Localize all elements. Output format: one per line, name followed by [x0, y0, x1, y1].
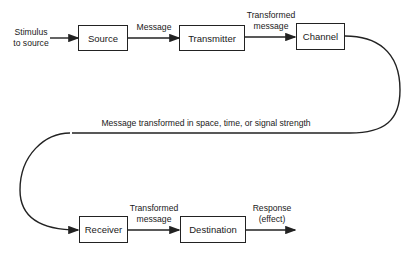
transformed-message-label-bottom: Transformedmessage — [127, 203, 181, 225]
transmitter-label: Transmitter — [188, 33, 236, 44]
channel-transform-label: Message transformed in space, time, or s… — [95, 118, 317, 129]
channel-box: Channel — [296, 23, 345, 50]
transformed-message-label-top: Transformedmessage — [244, 10, 298, 32]
input-label: Stimulusto source — [8, 27, 54, 49]
receiver-label: Receiver — [85, 224, 123, 235]
source-box: Source — [78, 25, 128, 51]
response-label: Response(effect) — [247, 203, 297, 225]
destination-box: Destination — [180, 216, 246, 243]
source-label: Source — [88, 33, 118, 44]
receiver-box: Receiver — [79, 216, 128, 243]
transmitter-box: Transmitter — [179, 25, 245, 51]
message-label: Message — [128, 22, 180, 33]
channel-label: Channel — [303, 31, 338, 42]
destination-label: Destination — [189, 224, 237, 235]
